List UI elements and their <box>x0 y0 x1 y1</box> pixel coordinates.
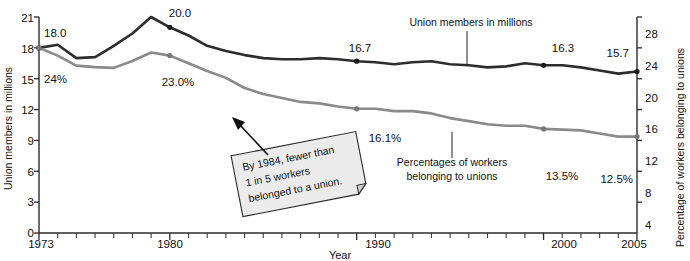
data-point-marker <box>634 134 639 139</box>
y-axis-right-title: Percentage of workers belonging to union… <box>674 48 686 247</box>
series-label-union-members: Union members in millions <box>409 16 532 66</box>
x-axis-title: Year <box>329 249 352 261</box>
x-tick-label-2005: 2005 <box>621 238 647 250</box>
chart-figure: 21 18 15 12 9 6 3 0 28 24 20 16 12 8 4 1… <box>0 0 690 261</box>
y-tick-label-15: 15 <box>21 74 34 86</box>
point-label-20-0: 20.0 <box>169 7 191 19</box>
point-label-23pct: 23.0% <box>162 76 195 88</box>
series-union-members-line <box>39 17 637 74</box>
data-point-marker <box>354 106 359 111</box>
y2-tick-label-24: 24 <box>645 60 658 72</box>
y-tick-label-18: 18 <box>21 43 34 55</box>
y-tick-label-3: 3 <box>28 196 34 208</box>
point-label-24pct: 24% <box>44 73 67 85</box>
point-label-15-7: 15.7 <box>607 47 629 59</box>
y2-tick-label-4: 4 <box>645 219 652 231</box>
point-label-16-3: 16.3 <box>552 42 574 54</box>
point-label-18-0: 18.0 <box>44 27 66 39</box>
series-label-percentages: Percentages of workers belonging to unio… <box>397 132 507 182</box>
data-point-markers <box>36 25 639 140</box>
annotation-arrow-shaft <box>239 124 268 155</box>
point-label-16-1pct: 16.1% <box>369 132 402 144</box>
y-axis-left-tick-labels: 21 18 15 12 9 6 3 0 <box>21 12 34 239</box>
x-tick-label-2000: 2000 <box>551 238 577 250</box>
y-axis-right-tick-labels: 28 24 20 16 12 8 4 <box>645 28 658 231</box>
series-percentage-line <box>39 48 637 137</box>
data-point-marker <box>541 126 546 131</box>
annotation-callout: By 1984, fewer than 1 in 5 workers belon… <box>231 132 367 217</box>
data-point-marker <box>634 69 639 74</box>
data-point-marker <box>167 53 172 58</box>
y-tick-label-9: 9 <box>28 135 34 147</box>
annotation-callout-fold <box>357 184 368 195</box>
y-axis-left-title: Union members in millions <box>2 67 14 190</box>
y-tick-label-21: 21 <box>21 12 34 24</box>
series-label-percentages-line2: belonging to unions <box>406 170 497 182</box>
y2-tick-label-12: 12 <box>645 155 658 167</box>
y2-tick-label-16: 16 <box>645 123 658 135</box>
y-tick-label-6: 6 <box>28 166 34 178</box>
data-point-marker <box>36 45 41 50</box>
point-label-12-5pct: 12.5% <box>600 173 633 185</box>
y-tick-label-12: 12 <box>21 104 34 116</box>
data-point-marker <box>354 59 359 64</box>
y2-tick-label-20: 20 <box>645 92 658 104</box>
data-point-marker <box>167 25 172 30</box>
axes-group <box>39 17 637 233</box>
y2-tick-label-8: 8 <box>645 187 651 199</box>
line-chart-canvas: 21 18 15 12 9 6 3 0 28 24 20 16 12 8 4 1… <box>0 0 690 261</box>
y-axis-right-ticks <box>637 17 642 202</box>
series-label-union-members-text: Union members in millions <box>409 16 532 28</box>
point-label-13-5pct: 13.5% <box>546 170 579 182</box>
x-axis-ticks <box>39 233 637 240</box>
point-label-16-7: 16.7 <box>349 42 371 54</box>
x-tick-label-1990: 1990 <box>365 238 391 250</box>
x-tick-label-1980: 1980 <box>157 238 183 250</box>
data-point-marker <box>541 63 546 68</box>
annotation-arrow <box>232 117 268 155</box>
x-tick-label-1973: 1973 <box>28 238 54 250</box>
y2-tick-label-28: 28 <box>645 28 658 40</box>
